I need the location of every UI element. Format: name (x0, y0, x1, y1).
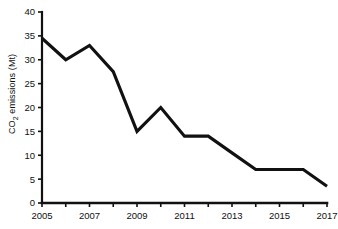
y-tick-label: 0 (30, 197, 35, 208)
y-tick-label: 35 (24, 30, 35, 41)
x-tick-label: 2011 (174, 210, 194, 221)
chart-svg: 0510152025303540 20052007200920112013201… (0, 0, 338, 229)
y-axis-title-subscript: 2 (12, 116, 19, 120)
x-tick-label-group: 2005200720092011201320152017 (31, 210, 337, 221)
line-chart: CO2 emissions (Mt) 0510152025303540 2005… (0, 0, 338, 229)
y-tick-label: 20 (24, 102, 35, 113)
y-tick-label: 15 (24, 126, 35, 137)
y-axis-title: CO2 emissions (Mt) (7, 19, 19, 169)
y-tick-label-group: 0510152025303540 (24, 6, 35, 208)
y-tick-label: 40 (24, 6, 35, 17)
x-tick-label: 2005 (31, 210, 52, 221)
y-tick-label: 5 (30, 174, 35, 185)
y-tick-label: 25 (24, 78, 35, 89)
x-tick-label: 2009 (126, 210, 147, 221)
x-tick-label: 2017 (316, 210, 337, 221)
x-tick-label: 2015 (269, 210, 290, 221)
y-tick-label: 30 (24, 54, 35, 65)
y-tick-label: 10 (24, 150, 35, 161)
data-series-line (42, 38, 327, 186)
y-axis-title-prefix: CO (7, 120, 17, 134)
y-axis-title-suffix: emissions (Mt) (7, 54, 17, 117)
x-tick-label: 2013 (221, 210, 242, 221)
x-tick-label: 2007 (79, 210, 100, 221)
